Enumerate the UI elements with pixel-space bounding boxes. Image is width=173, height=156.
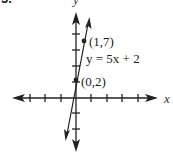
point-label-0-2: (0,2) [81,75,106,88]
point-1-7 [82,39,87,44]
equation-label: y = 5x + 2 [86,52,140,65]
graph-figure: 5. y x [0,0,173,156]
point-0-2 [74,78,79,83]
x-axis [12,94,158,102]
point-label-1-7: (1,7) [89,35,114,48]
